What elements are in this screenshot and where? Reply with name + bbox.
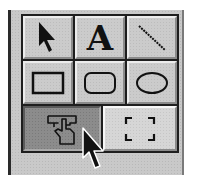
text-tool-icon: A [87, 21, 113, 55]
marquee-selection-icon [123, 115, 157, 143]
rounded-rectangle-tool-icon [82, 70, 118, 96]
mouse-cursor-icon [80, 126, 106, 172]
arrow-pointer-icon [33, 20, 63, 56]
oval-tool-icon [134, 70, 170, 96]
text-tool-button[interactable]: A [75, 16, 125, 59]
select-tool-button[interactable] [23, 16, 73, 59]
line-tool-button[interactable] [127, 16, 177, 59]
marquee-tool-button[interactable] [103, 106, 177, 151]
hand-grabber-icon [44, 111, 80, 147]
rectangle-tool-button[interactable] [23, 61, 73, 104]
oval-tool-button[interactable] [127, 61, 177, 104]
rounded-rectangle-tool-button[interactable] [75, 61, 125, 104]
rectangle-tool-icon [30, 70, 66, 96]
line-tool-icon [135, 23, 169, 53]
